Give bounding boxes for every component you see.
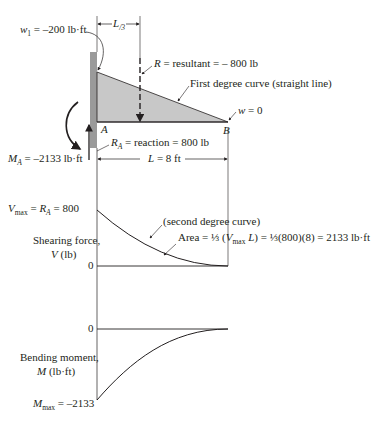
point-b-label: B xyxy=(223,124,230,136)
moment-a-label: MA = –2133 lb·ft xyxy=(7,152,83,167)
shear-axis-label-line2: V (lb) xyxy=(51,248,77,261)
point-a-label: A xyxy=(100,123,108,135)
moment-axis-label-line1: Bending moment, xyxy=(20,351,99,363)
moment-axis-label-line2: M (lb·ft) xyxy=(36,365,76,378)
shear-curve-label: (second degree curve) xyxy=(163,215,260,228)
resultant-leader xyxy=(142,66,152,74)
moment-arrow xyxy=(66,102,80,149)
w0-leader xyxy=(229,112,236,120)
resultant-label: R = resultant = – 800 lb xyxy=(153,57,259,69)
w1-label: w1 = –200 lb·ft xyxy=(20,23,87,38)
fixed-wall-support xyxy=(90,52,97,148)
diagram-canvas: L/3 R = resultant = – 800 lb w1 = –200 l… xyxy=(0,0,378,425)
third-dim-label: L/3 xyxy=(112,17,125,32)
area-leader xyxy=(164,244,176,255)
reaction-leader xyxy=(97,145,109,151)
moment-curve xyxy=(97,329,228,400)
reaction-label: RA = reaction = 800 lb xyxy=(110,136,209,151)
shear-axis-label-line1: Shearing force, xyxy=(33,234,100,246)
shear-curve-leader xyxy=(150,225,162,238)
load-shape-label: First degree curve (straight line) xyxy=(190,77,332,90)
mmax-label: Mmax = –2133 xyxy=(32,397,95,412)
length-label: L = 8 ft xyxy=(147,152,181,164)
moment-zero-label: 0 xyxy=(88,322,94,334)
load-shape-leader xyxy=(178,86,189,101)
shear-zero-label: 0 xyxy=(88,259,94,271)
area-label: Area = ⅓ (Vmax L) = ⅓(800)(8) = 2133 lb·… xyxy=(178,231,370,246)
vmax-label: Vmax = RA = 800 xyxy=(8,202,79,217)
w0-label: w = 0 xyxy=(238,104,263,116)
